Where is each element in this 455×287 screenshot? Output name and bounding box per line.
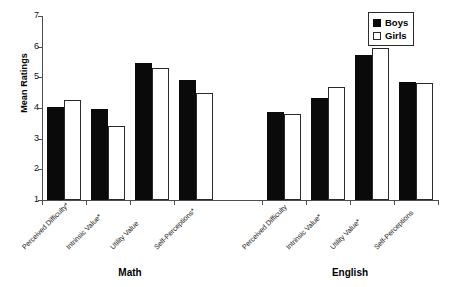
x-category-label-0: Perceived Difficulty*: [20, 201, 71, 252]
y-tick-label: 2: [34, 163, 39, 174]
legend-item-girls: Girls: [373, 29, 408, 42]
bar-girls-4: [284, 114, 301, 200]
y-tick-label: 7: [34, 10, 39, 21]
bar-boys-2: [135, 63, 152, 200]
bar-girls-1: [108, 126, 125, 200]
x-category-label-4: Perceived Difficulty: [240, 203, 289, 252]
legend-swatch-girls-icon: [373, 32, 381, 40]
x-tick-mark: [174, 200, 175, 205]
y-axis-title: Mean Ratings: [19, 23, 29, 143]
x-tick-mark: [438, 200, 439, 205]
bar-boys-4: [267, 112, 284, 200]
x-category-label-3: Self-Perceptions*: [152, 206, 197, 251]
bar-girls-7: [416, 83, 433, 200]
bar-boys-0: [47, 107, 64, 200]
bar-chart: Mean Ratings 1234567 Perceived Difficult…: [0, 0, 455, 287]
x-tick-mark: [130, 200, 131, 205]
x-tick-mark: [306, 200, 307, 205]
legend-item-boys: Boys: [373, 16, 408, 29]
y-tick-label: 6: [34, 41, 39, 52]
x-tick-mark: [86, 200, 87, 205]
legend-label-girls: Girls: [385, 30, 407, 41]
x-category-label-2: Utility Value: [108, 219, 140, 251]
x-tick-mark: [394, 200, 395, 205]
group-label-english: English: [290, 267, 410, 278]
bar-girls-5: [328, 87, 345, 200]
x-tick-mark: [350, 200, 351, 205]
legend-swatch-boys-icon: [373, 19, 381, 27]
y-tick-label: 4: [34, 102, 39, 113]
bar-girls-3: [196, 93, 213, 200]
bar-girls-0: [64, 100, 81, 200]
group-label-math: Math: [70, 267, 190, 278]
bar-girls-6: [372, 48, 389, 200]
bar-boys-1: [91, 109, 108, 200]
legend-label-boys: Boys: [385, 17, 408, 28]
x-category-label-7: Self-Perceptions: [372, 208, 415, 251]
bar-boys-6: [355, 55, 372, 200]
x-tick-mark: [262, 200, 263, 205]
x-axis-line: [42, 200, 438, 201]
x-category-label-5: Intrinsic Value*: [284, 212, 323, 251]
legend: Boys Girls: [368, 12, 414, 46]
bar-boys-5: [311, 98, 328, 200]
y-tick-label: 3: [34, 133, 39, 144]
bar-boys-3: [179, 80, 196, 200]
x-category-label-1: Intrinsic Value*: [64, 212, 103, 251]
y-tick-label: 5: [34, 71, 39, 82]
x-category-label-6: Utility Value*: [328, 217, 362, 251]
bar-girls-2: [152, 68, 169, 200]
y-tick-label: 1: [34, 194, 39, 205]
bar-boys-7: [399, 82, 416, 200]
x-tick-mark: [42, 200, 43, 205]
